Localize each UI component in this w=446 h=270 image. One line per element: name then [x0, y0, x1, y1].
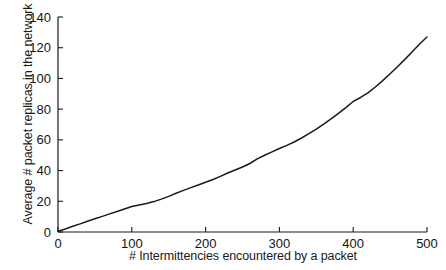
y-tick-label: 80 [37, 102, 51, 117]
y-tick-label: 20 [37, 194, 51, 209]
y-tick-label: 60 [37, 132, 51, 147]
data-line-series-0 [58, 37, 427, 231]
y-tick-label: 0 [44, 225, 51, 240]
y-tick-label: 120 [29, 40, 51, 55]
x-axis-label: # Intermittencies encountered by a packe… [58, 249, 428, 263]
x-axis-group: 0100200300400500 [54, 227, 437, 251]
y-tick-label: 100 [29, 71, 51, 86]
y-tick-label: 40 [37, 163, 51, 178]
plot-area: 020406080100120140 0100200300400500 [0, 0, 446, 270]
chart-figure: Average # packet replicas in the network… [0, 0, 446, 270]
y-tick-label: 140 [29, 10, 51, 25]
